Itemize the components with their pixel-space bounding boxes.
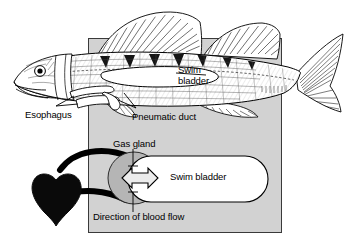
label-swim-bladder-schematic: Swim bladder (170, 172, 226, 183)
label-esophagus: Esophagus (25, 110, 72, 121)
label-swim-bladder-fish: Swim bladder (178, 65, 224, 86)
label-gas-gland: Gas gland (113, 139, 155, 150)
label-direction-of-blood-flow: Direction of blood flow (93, 212, 184, 223)
caudal-fin (296, 34, 343, 112)
spiny-dorsal-fin (96, 12, 202, 58)
label-pneumatic-duct: Pneumatic duct (132, 112, 196, 123)
label-swim-bladder-fish-line1: Swim (178, 64, 201, 75)
rete-mirabile-shape (32, 174, 81, 226)
label-swim-bladder-fish-line2: bladder (178, 75, 209, 86)
figure-root: Swim bladder Esophagus Pneumatic duct Ga… (0, 0, 347, 241)
soft-dorsal-fin (204, 23, 280, 59)
